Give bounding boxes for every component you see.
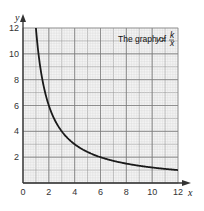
reciprocal-graph-chart: 02468101224681012 The graph of y = k x y… [0,0,204,211]
x-tick-label: 8 [124,187,129,197]
y-axis-arrow-icon [20,14,26,22]
title-denominator: x [169,38,175,48]
x-tick-label: 6 [98,187,103,197]
x-axis-arrow-icon [182,180,191,186]
y-axis-label: y [14,12,20,23]
x-tick-label: 12 [173,187,183,197]
y-tick-label: 12 [9,23,19,33]
title-eq: = [161,34,166,44]
grid-lines [23,28,178,183]
y-tick-label: 2 [14,152,19,162]
y-tick-label: 6 [14,101,19,111]
x-tick-label: 4 [72,187,77,197]
y-tick-label: 10 [9,49,19,59]
x-tick-label: 0 [20,187,25,197]
x-tick-label: 10 [147,187,157,197]
x-tick-label: 2 [46,187,51,197]
y-tick-label: 8 [14,75,19,85]
x-axis-label: x [187,187,193,198]
y-tick-label: 4 [14,126,19,136]
